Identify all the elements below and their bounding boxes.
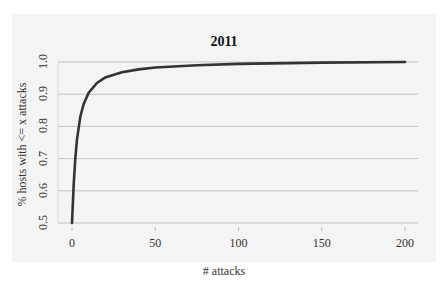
y-tick-label: 0.5 xyxy=(36,208,51,238)
x-tick-label: 200 xyxy=(385,236,425,251)
y-tick-label: 0.8 xyxy=(36,111,51,141)
x-tick-marks xyxy=(72,227,405,231)
y-tick-label: 0.9 xyxy=(36,79,51,109)
x-axis-label: # attacks xyxy=(0,264,448,279)
x-tick-label: 50 xyxy=(135,236,175,251)
y-tick-label: 0.7 xyxy=(36,143,51,173)
y-tick-label: 0.6 xyxy=(36,175,51,205)
y-tick-label: 1.0 xyxy=(36,47,51,77)
cdf-line xyxy=(72,62,405,223)
x-tick-label: 100 xyxy=(219,236,259,251)
gridlines xyxy=(58,62,418,223)
x-tick-label: 0 xyxy=(52,236,92,251)
y-axis-label: % hosts with <= x attacks xyxy=(15,55,30,235)
x-tick-label: 150 xyxy=(302,236,342,251)
